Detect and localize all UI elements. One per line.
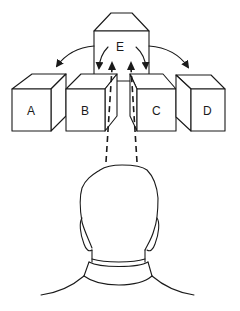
box-a: A [12,74,66,131]
box-d: D [176,75,225,131]
diagram-canvas: E A B C D [0,0,240,311]
box-e-label: E [116,40,124,54]
box-b: B [66,74,117,131]
diagram-svg: E A B C D [0,0,240,311]
box-c: C [130,74,176,131]
observer-head [41,165,194,295]
left-shoulder [41,276,84,295]
box-e: E [94,13,149,81]
arrow-e-to-a [57,46,94,66]
box-c-label: C [152,104,161,118]
box-a-label: A [27,104,35,118]
box-b-label: B [81,104,89,118]
arrow-e-to-d [149,46,188,67]
right-shoulder [152,276,194,295]
box-d-label: D [203,104,212,118]
collar [89,262,148,267]
